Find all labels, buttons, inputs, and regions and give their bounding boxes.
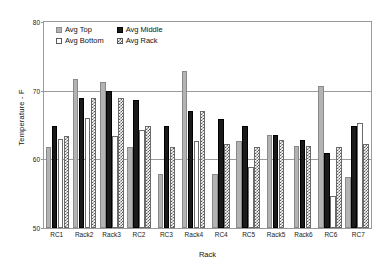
bar-avg-rack-rack4 xyxy=(200,111,206,228)
x-tick-label-rc6: RC6 xyxy=(317,231,344,238)
bar-avg-top-rc1 xyxy=(46,147,52,228)
bar-avg-top-rc7 xyxy=(345,177,351,228)
bar-avg-middle-rc6 xyxy=(324,153,330,228)
bar-avg-bottom-rack2 xyxy=(85,118,91,228)
bar-group-rc2 xyxy=(126,22,153,228)
bar-avg-rack-rack2 xyxy=(91,98,97,228)
legend-entry-avg-middle[interactable]: Avg Middle xyxy=(117,25,163,34)
y-tick-label-50: 50 xyxy=(33,225,40,232)
bar-chart: Temperature - F 50607080 RC1Rack2Rack3RC… xyxy=(0,0,381,274)
bar-group-rc4 xyxy=(208,22,235,228)
plot-area: 50607080 xyxy=(43,21,372,229)
bar-avg-middle-rack4 xyxy=(188,111,194,228)
y-tick-label-60: 60 xyxy=(33,156,40,163)
bar-avg-bottom-rc6 xyxy=(330,196,336,228)
bar-avg-rack-rack5 xyxy=(279,140,285,228)
bar-avg-top-rc2 xyxy=(127,147,133,228)
bar-avg-top-rack3 xyxy=(100,82,106,228)
bar-avg-top-rc4 xyxy=(212,174,218,228)
bar-avg-top-rc3 xyxy=(158,174,164,228)
bar-avg-rack-rc2 xyxy=(145,126,151,228)
bar-group-rack5 xyxy=(262,22,289,228)
bar-avg-top-rack2 xyxy=(73,79,79,228)
legend-swatch-icon xyxy=(117,27,123,33)
x-axis-title: Rack xyxy=(43,250,372,259)
bar-avg-top-rack4 xyxy=(182,71,188,228)
bar-avg-bottom-rc7 xyxy=(357,123,363,228)
legend-swatch-icon xyxy=(56,27,62,33)
x-tick-label-rc1: RC1 xyxy=(43,231,70,238)
bar-avg-rack-rc7 xyxy=(363,144,369,228)
bar-groups-container xyxy=(44,22,371,228)
bar-avg-top-rack5 xyxy=(267,135,273,228)
bar-avg-middle-rc3 xyxy=(164,126,170,228)
x-tick-label-rc4: RC4 xyxy=(208,231,235,238)
legend-entry-avg-bottom[interactable]: Avg Bottom xyxy=(56,36,104,45)
bar-avg-rack-rc3 xyxy=(170,147,176,228)
bar-group-rack6 xyxy=(289,22,316,228)
bar-avg-top-rc6 xyxy=(318,86,324,228)
bar-avg-middle-rack5 xyxy=(273,135,279,228)
bar-avg-middle-rc7 xyxy=(351,126,357,228)
x-tick-label-rack5: Rack5 xyxy=(262,231,289,238)
bar-avg-middle-rc4 xyxy=(218,119,224,228)
bar-avg-bottom-rack4 xyxy=(194,141,200,228)
x-tick-label-rack2: Rack2 xyxy=(70,231,97,238)
bar-avg-middle-rack2 xyxy=(79,98,85,228)
legend-label: Avg Rack xyxy=(126,36,158,45)
legend-label: Avg Top xyxy=(65,25,92,34)
x-tick-label-rack6: Rack6 xyxy=(290,231,317,238)
bar-group-rack3 xyxy=(99,22,126,228)
bar-group-rack4 xyxy=(180,22,207,228)
bar-avg-bottom-rack3 xyxy=(112,136,118,228)
y-axis-title: Temperature - F xyxy=(17,48,26,188)
y-tick-mark-50 xyxy=(41,228,44,229)
legend-label: Avg Bottom xyxy=(65,36,104,45)
bar-avg-top-rc5 xyxy=(236,141,242,228)
bar-avg-bottom-rc5 xyxy=(248,167,254,228)
x-tick-label-rack3: Rack3 xyxy=(98,231,125,238)
bar-group-rc5 xyxy=(235,22,262,228)
bar-group-rc1 xyxy=(44,22,71,228)
bar-avg-bottom-rc2 xyxy=(139,130,145,228)
x-tick-label-rack4: Rack4 xyxy=(180,231,207,238)
y-tick-label-80: 80 xyxy=(33,19,40,26)
bar-avg-middle-rc1 xyxy=(52,126,58,228)
bar-avg-middle-rack6 xyxy=(300,140,306,228)
x-axis-tick-labels: RC1Rack2Rack3RC2RC3Rack4RC4RC5Rack5Rack6… xyxy=(43,231,372,238)
x-tick-label-rc7: RC7 xyxy=(345,231,372,238)
bar-group-rack2 xyxy=(71,22,98,228)
bar-avg-middle-rack3 xyxy=(106,91,112,228)
legend-label: Avg Middle xyxy=(126,25,163,34)
bar-avg-rack-rc5 xyxy=(254,147,260,228)
bar-avg-rack-rc1 xyxy=(64,136,70,228)
bar-avg-middle-rc2 xyxy=(133,100,139,228)
bar-group-rc3 xyxy=(153,22,180,228)
bar-group-rc7 xyxy=(344,22,371,228)
chart-legend: Avg TopAvg MiddleAvg BottomAvg Rack xyxy=(56,25,163,45)
bar-group-rc6 xyxy=(317,22,344,228)
bar-avg-bottom-rc1 xyxy=(58,139,64,228)
legend-swatch-icon xyxy=(56,38,62,44)
legend-swatch-icon xyxy=(117,38,123,44)
x-tick-label-rc3: RC3 xyxy=(153,231,180,238)
bar-avg-middle-rc5 xyxy=(242,126,248,228)
bar-avg-rack-rack6 xyxy=(306,146,312,228)
bar-avg-rack-rc6 xyxy=(336,147,342,228)
bar-avg-rack-rack3 xyxy=(118,98,124,228)
y-tick-label-70: 70 xyxy=(33,87,40,94)
legend-entry-avg-rack[interactable]: Avg Rack xyxy=(117,36,163,45)
legend-entry-avg-top[interactable]: Avg Top xyxy=(56,25,104,34)
x-tick-label-rc5: RC5 xyxy=(235,231,262,238)
bar-avg-rack-rc4 xyxy=(224,144,230,228)
x-tick-label-rc2: RC2 xyxy=(125,231,152,238)
bar-avg-top-rack6 xyxy=(294,146,300,228)
